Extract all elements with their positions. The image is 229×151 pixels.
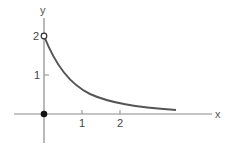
decay-curve (44, 36, 176, 110)
chart: y x 2 1 1 2 (0, 0, 229, 151)
y-axis-label: y (40, 4, 46, 16)
x-tick-label-2: 2 (117, 117, 123, 129)
x-axis-label: x (215, 108, 221, 120)
x-tick-label-1: 1 (79, 117, 85, 129)
y-tick-label-2: 2 (33, 30, 39, 42)
y-tick-label-1: 1 (34, 69, 40, 81)
open-circle-point (41, 33, 47, 39)
origin-dot (41, 111, 48, 118)
